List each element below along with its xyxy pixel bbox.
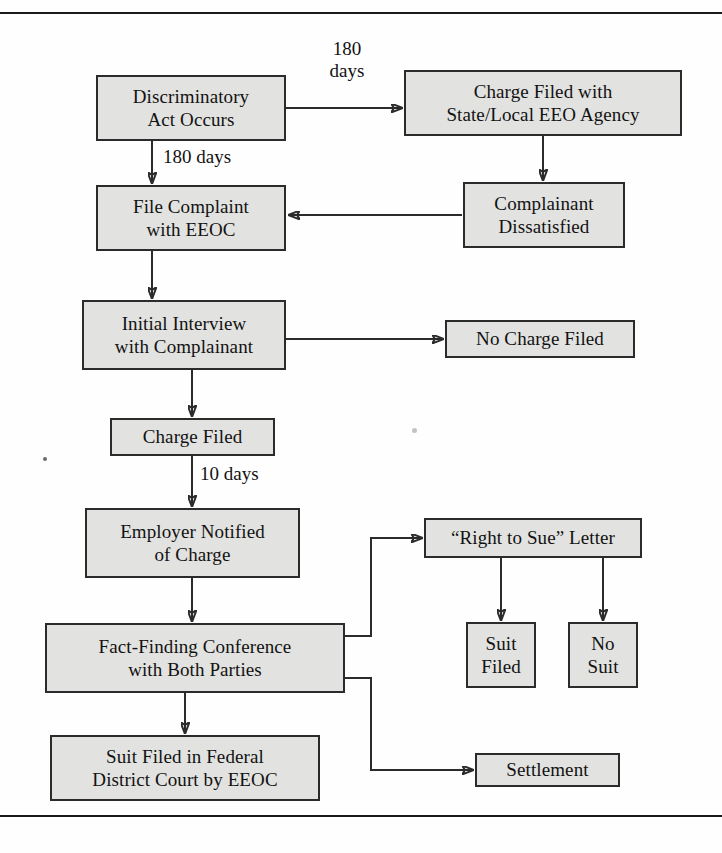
node-fact-finding-conference[interactable]: Fact-Finding Conferencewith Both Parties xyxy=(45,623,345,693)
node-discriminatory-act[interactable]: DiscriminatoryAct Occurs xyxy=(96,75,286,141)
node-right-to-sue-letter[interactable]: “Right to Sue” Letter xyxy=(424,518,642,558)
node-file-complaint-eeoc[interactable]: File Complaintwith EEOC xyxy=(96,185,286,251)
node-charge-state-agency[interactable]: Charge Filed withState/Local EEO Agency xyxy=(404,70,682,136)
node-label: ComplainantDissatisfied xyxy=(494,192,593,238)
edge-label-180-days-eeoc: 180 days xyxy=(163,146,273,168)
edge-fact-finding-to-rts xyxy=(345,538,422,636)
edge-fact-finding-to-settlement xyxy=(345,678,473,770)
node-charge-filed[interactable]: Charge Filed xyxy=(110,418,275,456)
scan-speck xyxy=(43,457,47,461)
node-initial-interview[interactable]: Initial Interviewwith Complainant xyxy=(82,300,286,370)
figure-top-rule xyxy=(0,12,722,14)
node-label: SuitFiled xyxy=(481,632,521,678)
node-label: NoSuit xyxy=(587,632,618,678)
node-label: Charge Filed withState/Local EEO Agency xyxy=(446,80,639,126)
node-label: Fact-Finding Conferencewith Both Parties xyxy=(99,635,292,681)
scan-speck xyxy=(412,428,417,433)
edge-label-180-days-state: 180days xyxy=(312,38,382,82)
node-label: Employer Notifiedof Charge xyxy=(120,520,265,566)
node-label: Suit Filed in FederalDistrict Court by E… xyxy=(92,745,277,791)
node-label: File Complaintwith EEOC xyxy=(133,195,249,241)
flowchart-figure: DiscriminatoryAct Occurs Charge Filed wi… xyxy=(0,0,722,853)
node-employer-notified[interactable]: Employer Notifiedof Charge xyxy=(85,508,300,578)
node-no-suit-branch[interactable]: NoSuit xyxy=(568,622,638,688)
figure-bottom-rule xyxy=(0,815,722,817)
node-settlement[interactable]: Settlement xyxy=(475,753,620,787)
node-suit-filed-branch[interactable]: SuitFiled xyxy=(466,622,536,688)
node-label: DiscriminatoryAct Occurs xyxy=(133,85,249,131)
node-no-charge-filed[interactable]: No Charge Filed xyxy=(445,320,635,358)
edge-label-10-days: 10 days xyxy=(200,463,310,485)
node-label: No Charge Filed xyxy=(476,327,604,350)
node-label: Settlement xyxy=(506,758,588,781)
node-suit-filed-federal-court[interactable]: Suit Filed in FederalDistrict Court by E… xyxy=(50,735,320,801)
node-complainant-dissatisfied[interactable]: ComplainantDissatisfied xyxy=(463,182,625,248)
node-label: Initial Interviewwith Complainant xyxy=(115,312,253,358)
node-label: “Right to Sue” Letter xyxy=(451,526,615,549)
node-label: Charge Filed xyxy=(143,425,243,448)
